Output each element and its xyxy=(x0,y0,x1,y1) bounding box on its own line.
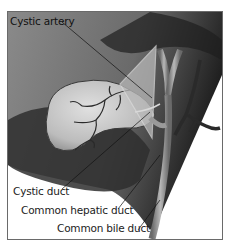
label-common-bile-duct: Common bile duct xyxy=(57,222,150,234)
label-common-hepatic-duct: Common hepatic duct xyxy=(21,204,133,216)
label-cystic-artery: Cystic artery xyxy=(10,15,74,27)
label-cystic-duct: Cystic duct xyxy=(13,185,69,197)
